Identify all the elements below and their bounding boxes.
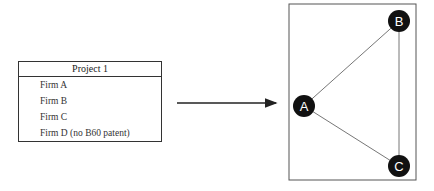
svg-text:A: A <box>300 99 309 114</box>
node-c: C <box>388 155 410 177</box>
edge-a-c <box>304 106 399 166</box>
svg-text:B: B <box>395 14 404 29</box>
diagram-canvas: A B C <box>0 0 434 191</box>
svg-text:C: C <box>394 159 403 174</box>
node-a: A <box>293 95 315 117</box>
edge-a-b <box>304 21 399 106</box>
node-b: B <box>388 10 410 32</box>
